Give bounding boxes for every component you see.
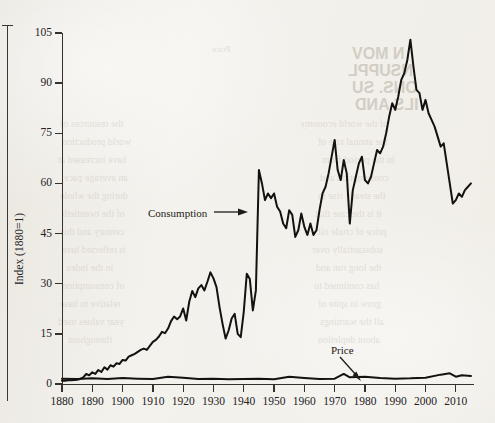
series-label-consumption: Consumption <box>148 207 207 219</box>
figure-page: N MOVNSUPPLONS. SUILS ANDof the world ec… <box>0 0 495 423</box>
series-label-price: Price <box>331 344 354 356</box>
series-line-consumption <box>62 40 471 381</box>
series-line-price <box>62 373 471 379</box>
annotation-arrow-consumption <box>214 208 248 215</box>
plot-series-layer <box>0 0 495 423</box>
line-chart: 0153045607590105 18801890190019101920193… <box>0 0 495 423</box>
